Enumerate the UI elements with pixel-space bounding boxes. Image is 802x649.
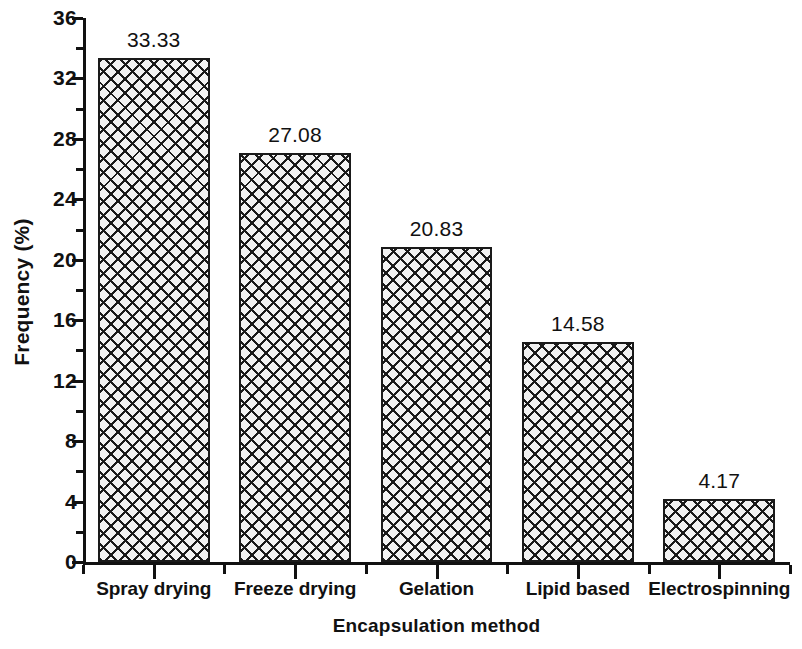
y-axis-minor-tick: [76, 349, 83, 352]
x-axis-category-label: Lipid based: [526, 578, 630, 600]
y-axis-tick-label: 24: [53, 187, 77, 211]
y-axis-tick-label: 12: [53, 368, 77, 392]
y-axis-tick-label: 8: [65, 429, 77, 453]
y-axis-tick-label: 4: [65, 489, 77, 513]
y-axis-minor-tick: [76, 531, 83, 534]
y-axis-tick-label: 28: [53, 126, 77, 150]
y-axis-minor-tick: [76, 108, 83, 111]
x-axis-major-tick: [436, 565, 439, 579]
x-axis-category-label: Electrospinning: [648, 578, 790, 600]
x-axis-minor-tick: [789, 565, 792, 574]
x-axis-minor-tick: [223, 565, 226, 574]
bar: [239, 153, 351, 562]
y-axis-tick-label: 20: [53, 247, 77, 271]
bar: [663, 499, 775, 562]
plot-area: 0481216202428323633.3327.0820.8314.584.1…: [83, 18, 790, 562]
bar: [98, 58, 210, 562]
y-axis-minor-tick: [76, 289, 83, 292]
y-axis-minor-tick: [76, 410, 83, 413]
x-axis-minor-tick: [82, 565, 85, 574]
bar-value-label: 14.58: [551, 312, 605, 336]
x-axis-category-label: Freeze drying: [234, 578, 356, 600]
x-axis-major-tick: [294, 565, 297, 579]
bar-value-label: 27.08: [268, 123, 322, 147]
bar-value-label: 20.83: [410, 217, 464, 241]
y-axis-tick-label: 16: [53, 308, 77, 332]
bar: [381, 247, 493, 562]
y-axis-minor-tick: [76, 168, 83, 171]
bar: [522, 342, 634, 562]
bar-chart: 0481216202428323633.3327.0820.8314.584.1…: [0, 0, 802, 649]
x-axis-minor-tick: [365, 565, 368, 574]
bar-value-label: 33.33: [127, 28, 181, 52]
y-axis-minor-tick: [76, 470, 83, 473]
x-axis-category-label: Spray drying: [96, 578, 211, 600]
x-axis-minor-tick: [506, 565, 509, 574]
x-axis-category-label: Gelation: [399, 578, 474, 600]
x-axis-major-tick: [577, 565, 580, 579]
y-axis-tick-label: 36: [53, 6, 77, 30]
y-axis-minor-tick: [76, 229, 83, 232]
x-axis-title: Encapsulation method: [83, 615, 790, 637]
bar-value-label: 4.17: [698, 469, 740, 493]
x-axis-minor-tick: [648, 565, 651, 574]
y-axis-tick-label: 0: [65, 550, 77, 574]
x-axis-major-tick: [718, 565, 721, 579]
y-axis-title: Frequency (%): [10, 162, 34, 422]
y-axis-minor-tick: [76, 47, 83, 50]
x-axis-major-tick: [153, 565, 156, 579]
y-axis-tick-label: 32: [53, 66, 77, 90]
